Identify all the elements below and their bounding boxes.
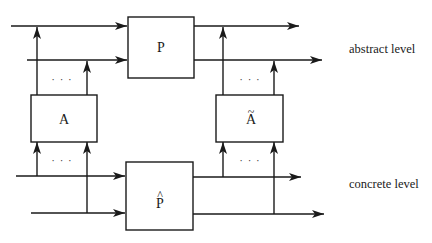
ellipsis-a-tilde-bottom: · · · (239, 154, 261, 166)
box-a-tilde: ~ A (216, 95, 283, 142)
box-a-label: A (59, 112, 70, 127)
box-p-label: P (157, 40, 165, 55)
ellipsis-a-top: · · · (51, 73, 73, 85)
box-p-hat-label: P (156, 196, 164, 211)
box-a: A (31, 95, 97, 142)
abstraction-diagram: P A ~ A ^ P · · · · · · · · · · · · abst… (0, 0, 432, 243)
abstract-input-lines (11, 26, 127, 60)
box-p: P (128, 17, 194, 78)
abstract-level-label: abstract level (349, 42, 416, 56)
concrete-input-lines (16, 176, 125, 213)
concrete-output-lines (193, 177, 324, 214)
box-a-tilde-label: A (246, 112, 257, 127)
ellipsis-a-bottom: · · · (51, 154, 73, 166)
abstract-output-lines (194, 26, 322, 60)
box-p-hat: ^ P (126, 162, 193, 230)
ellipsis-a-tilde-top: · · · (239, 73, 261, 85)
concrete-level-label: concrete level (349, 177, 419, 191)
